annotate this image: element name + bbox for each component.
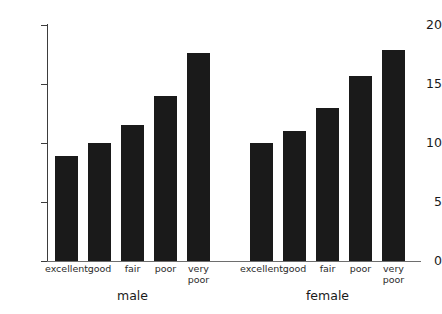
bar <box>121 125 144 261</box>
bar <box>283 131 306 261</box>
bar <box>187 53 210 261</box>
bar <box>55 156 78 261</box>
plot-area: excellentgoodfairpoorvery poormaleexcell… <box>0 0 442 314</box>
bar <box>250 143 273 261</box>
bar <box>382 50 405 261</box>
x-axis-tick-label: very poor <box>169 264 229 285</box>
bar <box>316 108 339 261</box>
bar <box>349 76 372 261</box>
group-label: female <box>268 288 388 303</box>
group-label: male <box>73 288 193 303</box>
bar <box>154 96 177 261</box>
x-axis-tick-label: very poor <box>364 264 424 285</box>
bar <box>88 143 111 261</box>
bar-chart: mean of ghqscale 20151050 excellentgoodf… <box>0 0 442 314</box>
